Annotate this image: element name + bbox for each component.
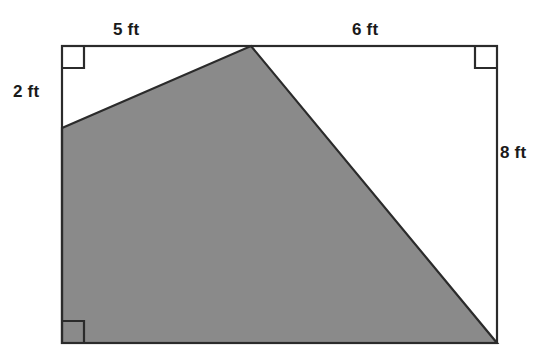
dimension-label-right: 8 ft xyxy=(500,144,526,161)
dimension-label-left: 2 ft xyxy=(13,83,39,100)
dimension-label-top-right: 6 ft xyxy=(352,21,378,38)
top-left-right-angle-icon xyxy=(62,46,84,68)
figure-canvas xyxy=(0,0,554,363)
geometry-figure: 5 ft 6 ft 2 ft 8 ft xyxy=(0,0,554,363)
top-right-right-angle-icon xyxy=(475,46,497,68)
shaded-region xyxy=(62,46,497,343)
dimension-label-top-left: 5 ft xyxy=(113,21,139,38)
